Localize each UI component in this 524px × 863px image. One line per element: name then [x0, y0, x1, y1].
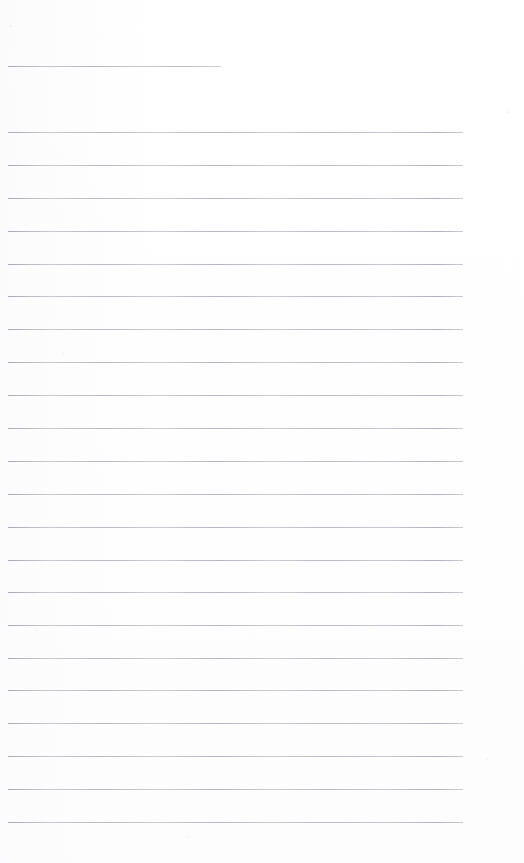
document-page	[0, 0, 524, 863]
body-rule-12	[8, 494, 463, 495]
title-rule	[8, 66, 221, 67]
body-rule-13	[8, 527, 463, 528]
body-rule-15	[8, 592, 463, 593]
body-rule-10	[8, 428, 463, 429]
body-rule-7	[8, 329, 463, 330]
body-rule-3	[8, 198, 463, 199]
paper-surface	[0, 0, 524, 863]
body-rule-21	[8, 789, 463, 790]
body-rule-1	[8, 132, 463, 133]
body-rule-2	[8, 165, 463, 166]
body-rule-6	[8, 296, 463, 297]
body-rule-9	[8, 395, 463, 396]
body-rule-20	[8, 756, 463, 757]
body-rule-4	[8, 231, 463, 232]
body-rule-22	[8, 822, 463, 823]
body-rule-17	[8, 658, 463, 659]
body-rule-16	[8, 625, 463, 626]
body-rule-18	[8, 690, 463, 691]
body-rule-8	[8, 362, 463, 363]
body-rule-19	[8, 723, 463, 724]
body-rule-14	[8, 560, 463, 561]
body-rule-5	[8, 264, 463, 265]
body-rule-11	[8, 461, 463, 462]
scan-noise-overlay	[0, 0, 524, 863]
